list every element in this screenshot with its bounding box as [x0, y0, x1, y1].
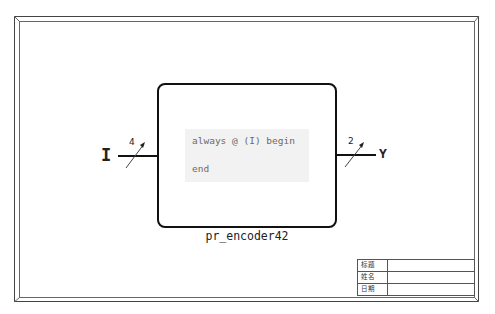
title-label: 标题 [358, 260, 388, 272]
code-snippet: always @ (I) begin end [185, 129, 309, 182]
title-block-row: 标题 [358, 260, 475, 272]
output-bus-slash-icon [340, 138, 370, 172]
name-value[interactable] [388, 272, 475, 284]
code-line-1: always @ (I) begin [192, 135, 295, 146]
name-label: 姓名 [358, 272, 388, 284]
input-bus-slash-icon [120, 138, 150, 172]
input-port-label: I [101, 145, 111, 165]
date-value[interactable] [388, 284, 475, 296]
title-block: 标题 姓名 日期 [357, 259, 475, 296]
title-block-row: 姓名 [358, 272, 475, 284]
output-bus-width: 2 [348, 136, 354, 146]
date-label: 日期 [358, 284, 388, 296]
input-bus-width: 4 [129, 137, 135, 147]
title-value[interactable] [388, 260, 475, 272]
title-block-row: 日期 [358, 284, 475, 296]
output-port-label: Y [379, 146, 387, 161]
code-line-2: end [192, 163, 209, 174]
module-name: pr_encoder42 [157, 229, 337, 243]
